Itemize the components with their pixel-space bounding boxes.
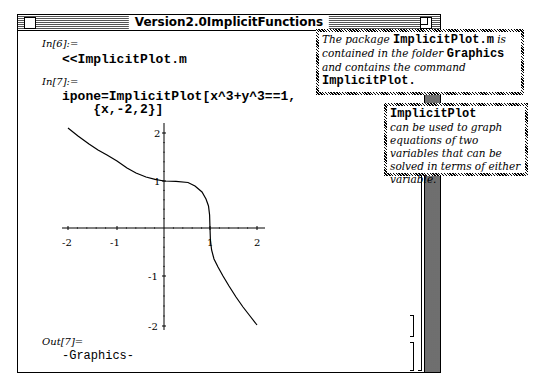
y-tick-label: -2 xyxy=(148,321,158,332)
output-label: Out[7]= xyxy=(42,336,83,347)
callout-text: The package xyxy=(322,33,393,45)
callout-package-info: The package ImplicitPlot.m is contained … xyxy=(316,29,524,95)
x-tick-label: 2 xyxy=(254,237,260,248)
curve xyxy=(68,128,257,325)
x-tick-label: 1 xyxy=(207,237,213,248)
y-tick-label: 1 xyxy=(154,176,160,187)
callout-implicitplot-usage: ImplicitPlot can be used to graph equati… xyxy=(384,103,528,176)
callout-text: and contains the command xyxy=(322,61,466,73)
x-tick-label: -2 xyxy=(62,237,72,248)
callout-code: Graphics xyxy=(447,47,505,61)
y-tick-label: 2 xyxy=(154,128,160,139)
callout-code: ImplicitPlot.m xyxy=(393,33,494,47)
callout-code: ImplicitPlot xyxy=(322,74,408,88)
callout-code: ImplicitPlot xyxy=(390,107,476,121)
y-tick-label: -1 xyxy=(148,271,158,282)
x-tick-label: -1 xyxy=(110,237,120,248)
output-value: -Graphics- xyxy=(62,349,134,363)
callout-text: can be used to graph equations of two va… xyxy=(390,121,520,185)
callout-code: . xyxy=(408,74,415,88)
